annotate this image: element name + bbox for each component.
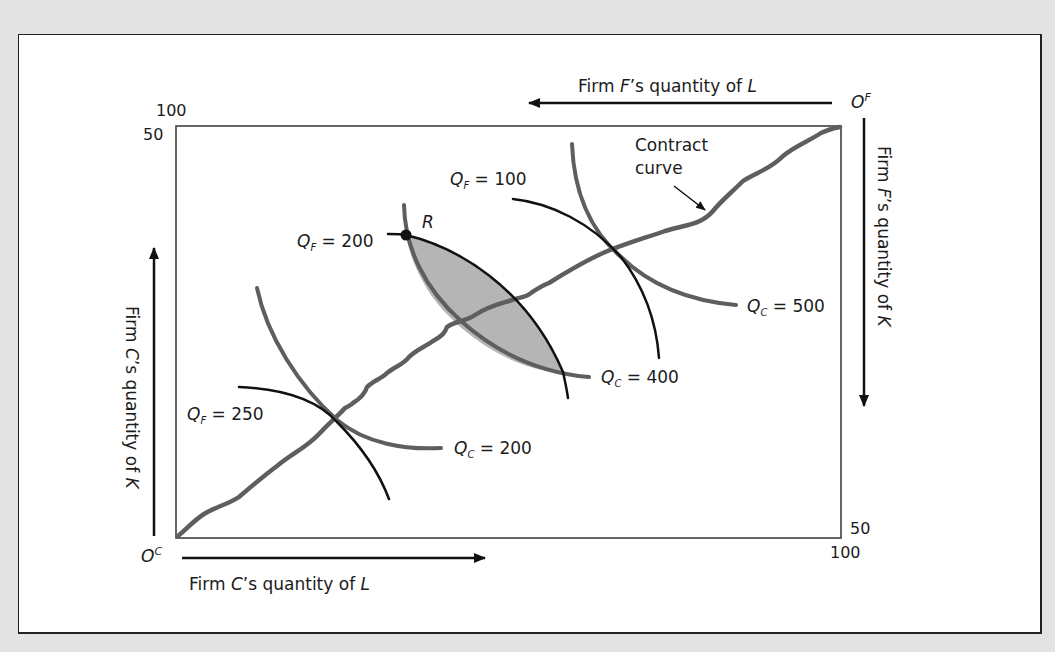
point-r-dot xyxy=(401,230,412,241)
tick-top-left-100: 100 xyxy=(156,101,187,120)
isoquant-qc-200 xyxy=(257,288,441,448)
firm-f-labor-axis-label: Firm F’s quantity of L xyxy=(578,76,757,96)
firm-c-capital-axis-label: Firm C’s quantity of K xyxy=(122,306,142,491)
label-qc-200: QC = 200 xyxy=(454,438,532,460)
tick-bottom-right-100: 100 xyxy=(830,543,861,562)
figure-panel: R QF = 250 QF = 200 QF = 100 QC = 200 QC… xyxy=(18,34,1042,634)
tick-top-left-50: 50 xyxy=(143,125,163,144)
firm-f-capital-axis-label: Firm F’s quantity of K xyxy=(874,146,894,328)
edgeworth-box-diagram: R QF = 250 QF = 200 QF = 100 QC = 200 QC… xyxy=(19,35,1043,635)
contract-curve-label-line2: curve xyxy=(635,158,683,178)
label-qf-200: QF = 200 xyxy=(297,231,374,253)
point-r-label: R xyxy=(422,212,434,232)
firm-c-labor-axis-label: Firm C’s quantity of L xyxy=(189,574,370,594)
label-qf-100: QF = 100 xyxy=(450,169,527,191)
origin-firm-c: OC xyxy=(141,545,162,566)
label-qf-250: QF = 250 xyxy=(187,404,264,426)
contract-curve-pointer-arrow xyxy=(674,186,705,210)
tick-bottom-right-50: 50 xyxy=(850,519,870,538)
contract-curve-label-line1: Contract xyxy=(635,135,708,155)
label-qc-400: QC = 400 xyxy=(601,367,679,389)
origin-firm-f: OF xyxy=(851,91,871,112)
pareto-improvement-region xyxy=(406,235,563,372)
label-qc-500: QC = 500 xyxy=(747,296,825,318)
